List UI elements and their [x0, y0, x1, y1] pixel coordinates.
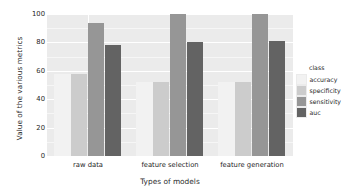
bar — [136, 82, 152, 156]
bar — [269, 41, 285, 156]
legend-swatch — [297, 75, 306, 84]
legend-title: class — [309, 64, 352, 71]
bar — [71, 74, 87, 156]
bar — [187, 42, 203, 156]
legend-swatch — [297, 108, 306, 117]
bar — [235, 82, 251, 156]
legend-label: sensitivity — [310, 98, 342, 105]
legend-label: specificity — [310, 87, 341, 94]
legend-item: auc — [296, 107, 352, 118]
bar — [54, 74, 70, 156]
legend-item: specificity — [296, 85, 352, 96]
bar — [252, 14, 268, 156]
legend-item: accuracy — [296, 74, 352, 85]
legend-label: auc — [310, 109, 321, 116]
bar — [170, 14, 186, 156]
legend-key — [296, 85, 307, 96]
bar — [105, 45, 121, 156]
y-axis-tick-label: 80 — [23, 38, 45, 46]
bar — [218, 82, 234, 156]
x-axis-title: Types of models — [47, 177, 293, 186]
x-axis-tick-label: raw data — [73, 161, 103, 169]
legend-entries: accuracyspecificitysensitivityauc — [296, 74, 352, 118]
bar — [88, 23, 104, 156]
y-axis-tick-label: 40 — [23, 95, 45, 103]
legend: class accuracyspecificitysensitivityauc — [296, 64, 352, 118]
legend-item: sensitivity — [296, 96, 352, 107]
bar-chart: Value of the various metrics 02040608010… — [0, 0, 353, 196]
legend-key — [296, 107, 307, 118]
plot-panel — [47, 14, 293, 156]
y-axis-tick-label: 60 — [23, 67, 45, 75]
y-axis-tick-label: 100 — [23, 10, 45, 18]
y-axis-tick-labels: 020406080100 — [22, 0, 45, 196]
legend-key — [296, 74, 307, 85]
legend-swatch — [297, 86, 306, 95]
legend-key — [296, 96, 307, 107]
y-axis-tick-label: 20 — [23, 124, 45, 132]
legend-swatch — [297, 97, 306, 106]
x-axis-tick-label: feature generation — [220, 161, 284, 169]
y-axis-tick-label: 0 — [23, 152, 45, 160]
bar — [153, 82, 169, 156]
legend-label: accuracy — [310, 76, 338, 83]
x-axis-tick-label: feature selection — [141, 161, 198, 169]
x-axis-tick-labels: raw datafeature selectionfeature generat… — [47, 156, 293, 176]
